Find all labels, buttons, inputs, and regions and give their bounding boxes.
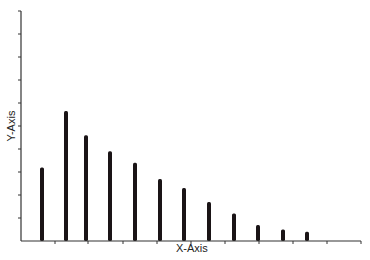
bar bbox=[133, 163, 137, 241]
bar bbox=[182, 188, 186, 241]
bar-chart: Y-Axis X-Axis bbox=[0, 0, 370, 260]
bar bbox=[84, 135, 88, 241]
bar bbox=[207, 202, 211, 241]
bar bbox=[256, 225, 260, 241]
bars bbox=[40, 111, 309, 241]
bar bbox=[281, 230, 285, 242]
bar bbox=[158, 179, 162, 241]
bar bbox=[64, 111, 68, 241]
y-axis-label: Y-Axis bbox=[5, 110, 17, 141]
bar bbox=[108, 151, 112, 241]
bar bbox=[305, 232, 309, 241]
bar bbox=[232, 213, 236, 241]
bar bbox=[40, 167, 44, 241]
x-axis-label: X-Axis bbox=[176, 242, 208, 254]
